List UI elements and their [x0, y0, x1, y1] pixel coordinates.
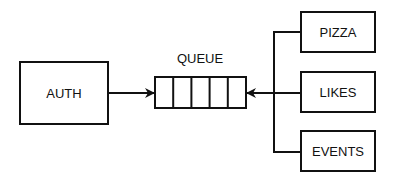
likes-label: LIKES: [320, 85, 357, 100]
pizza-node: PIZZA: [301, 12, 375, 52]
events-label: EVENTS: [312, 144, 364, 159]
pizza-label: PIZZA: [320, 25, 357, 40]
auth-node: AUTH: [20, 62, 108, 124]
likes-node: LIKES: [301, 72, 375, 112]
auth-label: AUTH: [46, 86, 81, 101]
queue-node: [155, 77, 246, 108]
queue-label: QUEUE: [177, 51, 224, 66]
diagram-canvas: AUTH QUEUE PIZZA LIKES EVENTS: [0, 0, 393, 180]
events-node: EVENTS: [301, 131, 375, 171]
